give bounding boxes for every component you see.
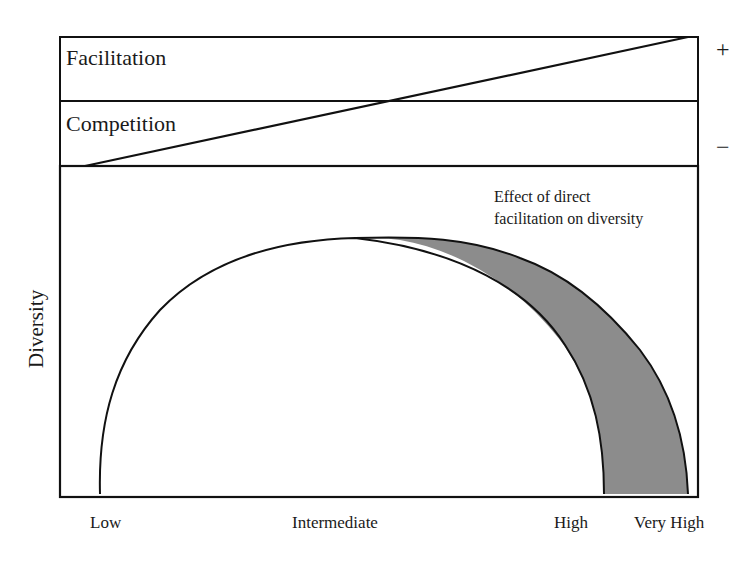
x-tick-high: High: [554, 513, 588, 533]
x-tick-very-high: Very High: [634, 513, 704, 533]
x-tick-intermediate: Intermediate: [292, 513, 378, 533]
minus-sign: −: [716, 134, 730, 161]
y-axis-label: Diversity: [24, 290, 49, 368]
facilitation-effect-region: [355, 237, 688, 494]
annotation-line-1: Effect of direct: [494, 186, 591, 208]
x-tick-low: Low: [90, 513, 121, 533]
diagram-canvas: [0, 0, 752, 565]
plus-sign: +: [716, 36, 730, 63]
annotation-line-2: facilitation on diversity: [494, 208, 643, 230]
facilitation-label: Facilitation: [66, 45, 166, 71]
competition-label: Competition: [66, 111, 176, 137]
